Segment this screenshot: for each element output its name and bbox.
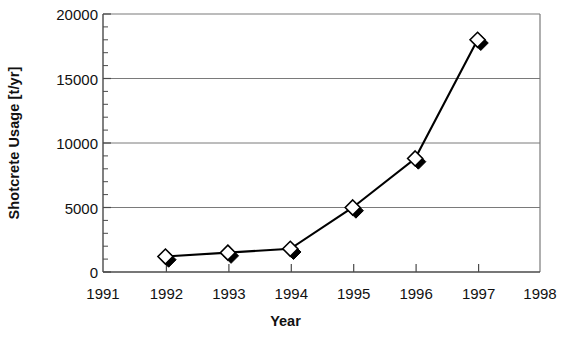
x-tick-label: 1996 — [399, 286, 432, 301]
x-tick-label: 1992 — [150, 286, 183, 301]
chart-container: Shotcrete Usage [t/yr] 0 5000 10000 1500… — [0, 0, 571, 340]
x-axis-title: Year — [0, 313, 571, 329]
x-axis-title-label: Year — [270, 313, 301, 329]
x-tick-label: 1997 — [462, 286, 495, 301]
x-tick-label: 1994 — [275, 286, 308, 301]
x-tick-label: 1991 — [86, 286, 119, 301]
x-tick-label: 1995 — [337, 286, 370, 301]
x-tick-label: 1998 — [523, 286, 556, 301]
x-axis-tick-labels: 1991 1992 1993 1994 1995 1996 1997 1998 — [0, 0, 571, 340]
x-tick-label: 1993 — [212, 286, 245, 301]
